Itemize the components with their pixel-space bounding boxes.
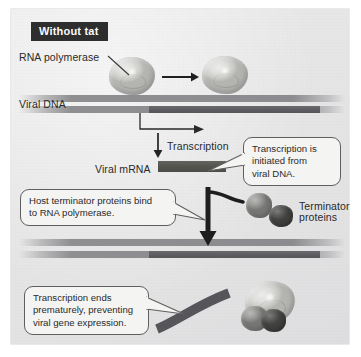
figure-title-chip: Without tat bbox=[31, 22, 108, 41]
transcription-start-arrow bbox=[137, 112, 207, 138]
terminator-protein-dark bbox=[269, 205, 293, 227]
callout-line: viral gene expression. bbox=[33, 317, 141, 329]
callout-tail-premature-end bbox=[144, 294, 186, 318]
label-viral-dna: Viral DNA bbox=[19, 98, 66, 110]
terminator-protein-dark-bound bbox=[261, 309, 286, 332]
diagram-panel: Without tat RNA polymerase Viral DNA bbox=[11, 9, 349, 344]
callout-line: initiated from bbox=[252, 155, 333, 167]
viral-dna-strand-bottom-lower bbox=[19, 251, 345, 258]
dna-backbone bbox=[19, 95, 345, 102]
transcription-arrow bbox=[152, 133, 164, 159]
dna-backbone bbox=[19, 239, 345, 246]
figure-container: Without tat RNA polymerase Viral DNA bbox=[0, 0, 361, 357]
callout-premature-termination: Transcription ends prematurely, preventi… bbox=[24, 286, 149, 335]
callout-line: to RNA polymerase. bbox=[29, 207, 168, 219]
label-viral-mrna: Viral mRNA bbox=[95, 163, 151, 175]
leader-line-rna-polymerase bbox=[107, 55, 133, 77]
viral-gene-segment bbox=[149, 251, 320, 258]
viral-dna-strand-bottom-upper bbox=[19, 239, 345, 246]
callout-line: prematurely, preventing bbox=[33, 304, 141, 316]
callout-tail-terminator-binding bbox=[171, 201, 207, 223]
callout-host-terminator-binding: Host terminator proteins bind to RNA pol… bbox=[20, 189, 176, 226]
callout-line: Transcription ends bbox=[33, 292, 141, 304]
viral-dna-strand-top-upper bbox=[19, 95, 345, 102]
callout-transcription-initiated: Transcription is initiated from viral DN… bbox=[243, 137, 341, 186]
rna-polymerase-blob-2 bbox=[202, 56, 248, 94]
label-rna-polymerase: RNA polymerase bbox=[19, 51, 99, 63]
label-terminator-proteins-line2: proteins bbox=[299, 211, 337, 223]
callout-line: Host terminator proteins bind bbox=[29, 195, 168, 207]
callout-line: viral DNA. bbox=[252, 168, 333, 180]
callout-line: Transcription is bbox=[252, 143, 333, 155]
callout-tail-initiation bbox=[207, 151, 247, 175]
polymerase-movement-arrow bbox=[162, 71, 200, 83]
